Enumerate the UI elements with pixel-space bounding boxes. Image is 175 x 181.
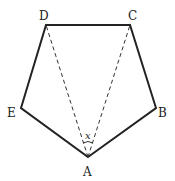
angle-arc [83,142,93,144]
vertex-label-b: B [158,106,167,120]
pentagon-diagram: x A B C D E [0,0,175,181]
diagonal-ac [88,25,130,157]
vertex-label-e: E [7,106,16,120]
diagonal-ad [46,25,88,157]
vertex-label-c: C [128,9,137,23]
angle-label-x: x [85,130,91,141]
vertex-label-d: D [39,9,49,23]
vertex-label-a: A [82,165,92,179]
